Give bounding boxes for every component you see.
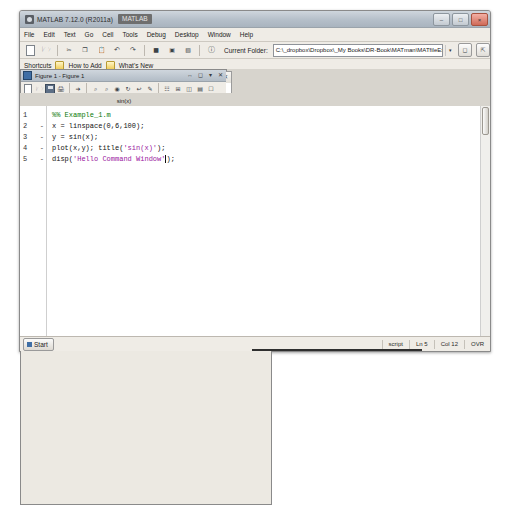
window-controls: – □ × [433, 13, 488, 26]
code-text: x = linspace(0,6,100); [52, 122, 144, 130]
zoom-out-icon[interactable]: ⌕ [101, 84, 111, 94]
code-line: y = sin(x); [52, 131, 480, 142]
window-title: MATLAB 7.12.0 (R2011a) [37, 16, 113, 23]
code-text-pre: plot(x,y); title( [52, 144, 123, 152]
menu-item-help[interactable]: Help [240, 31, 253, 38]
editor-code-area[interactable]: 1 2- 3- 4- 5- %% Example_1.m x = linspac… [20, 106, 490, 337]
menu-icon[interactable]: ▾ [206, 71, 214, 79]
guide-icon[interactable]: ▣ [165, 43, 179, 57]
shortcuts-label: Shortcuts [24, 62, 51, 69]
line-marker[interactable]: - [40, 122, 44, 130]
main-toolbar: 🗁 ✂ ❐ 📋 ↶ ↷ ■ ▣ ▧ ⓘ Current Folder: C:\_… [20, 42, 490, 59]
undock-icon[interactable]: ↔ [186, 71, 194, 79]
menu-item-edit[interactable]: Edit [43, 31, 54, 38]
pan-icon[interactable]: ◉ [112, 84, 122, 94]
line-marker[interactable]: - [40, 133, 44, 141]
gutter-line: 3- [20, 131, 46, 142]
code-text: y = sin(x); [52, 133, 98, 141]
code-text: %% Example_1.m [52, 111, 111, 119]
menu-item-go[interactable]: Go [85, 31, 94, 38]
code-line: disp('Hello Command Window'); [52, 153, 480, 164]
new-file-icon[interactable] [23, 43, 37, 57]
gutter-line: 5- [20, 153, 46, 164]
menu-item-cell[interactable]: Cell [102, 31, 113, 38]
hide-plot-tools-icon[interactable]: ◫ [184, 84, 194, 94]
menu-item-debug[interactable]: Debug [147, 31, 166, 38]
rotate3d-icon[interactable]: ↻ [123, 84, 133, 94]
zoom-in-icon[interactable]: ⌕ [90, 84, 100, 94]
chevron-down-icon[interactable]: ▾ [445, 45, 454, 56]
current-folder-input[interactable]: C:\_dropbox\Dropbox\_My Books\DR-Book\MA… [273, 44, 443, 57]
menu-item-tools[interactable]: Tools [122, 31, 137, 38]
start-button[interactable]: Start [23, 338, 54, 351]
undo-icon[interactable]: ↶ [110, 43, 124, 57]
datacursor-icon[interactable]: ↩ [134, 84, 144, 94]
pointer-icon[interactable]: ➔ [73, 84, 83, 94]
gutter-line: 1 [20, 109, 46, 120]
maximize-icon: □ [459, 17, 463, 23]
line-number: 5 [23, 155, 27, 163]
redo-icon[interactable]: ↷ [126, 43, 140, 57]
shortcut-whats-new[interactable]: What's New [119, 62, 153, 69]
status-overwrite-mode: OVR [465, 341, 490, 347]
editor-code-lines[interactable]: %% Example_1.m x = linspace(0,6,100); y … [47, 106, 480, 337]
print-icon[interactable]: 🖨 [56, 84, 66, 94]
start-icon [27, 342, 32, 347]
code-text-post: ); [166, 155, 174, 163]
matlab-main-window: MATLAB 7.12.0 (R2011a) MATLAB – □ × File… [19, 10, 491, 352]
scrollbar-thumb[interactable] [482, 107, 489, 135]
simulink-icon[interactable]: ■ [149, 43, 163, 57]
figure-title-bar: Figure 1 - Figure 1 ↔ ◻ ▾ ✕ [21, 70, 226, 82]
copy-icon[interactable]: ❐ [78, 43, 92, 57]
code-text-pre: disp( [52, 155, 73, 163]
browse-folder-icon[interactable]: ◻ [458, 43, 472, 57]
open-file-icon[interactable]: 🗁 [39, 43, 53, 57]
new-figure-icon[interactable] [23, 84, 33, 94]
start-label: Start [34, 341, 48, 348]
menu-item-desktop[interactable]: Desktop [175, 31, 199, 38]
editor-vertical-scrollbar[interactable] [480, 106, 490, 337]
paste-icon[interactable]: 📋 [94, 43, 108, 57]
current-folder-value: C:\_dropbox\Dropbox\_My Books\DR-Book\MA… [276, 47, 443, 53]
shortcut-how-to-add[interactable]: How to Add [68, 62, 101, 69]
status-bar: Start script Ln 5 Col 12 OVR [20, 336, 490, 351]
matlab-app-icon [25, 15, 34, 24]
brush-icon[interactable]: ✎ [145, 84, 155, 94]
save-figure-icon[interactable] [45, 84, 55, 94]
menu-bar: File Edit Text Go Cell Tools Debug Deskt… [20, 28, 490, 42]
maximize-icon[interactable]: ◻ [196, 71, 204, 79]
code-text-post: ); [157, 144, 165, 152]
close-button[interactable]: × [471, 13, 488, 26]
menu-item-file[interactable]: File [24, 31, 34, 38]
figure-title: Figure 1 - Figure 1 [35, 73, 84, 79]
maximize-button[interactable]: □ [452, 13, 469, 26]
help-icon[interactable]: ⓘ [204, 43, 218, 57]
line-marker[interactable]: - [40, 144, 44, 152]
show-plot-tools-icon[interactable]: ▤ [195, 84, 205, 94]
menu-item-text[interactable]: Text [64, 31, 76, 38]
menu-item-window[interactable]: Window [208, 31, 231, 38]
toolbar-separator [57, 45, 58, 56]
line-marker[interactable]: - [40, 155, 44, 163]
code-line: plot(x,y); title('sin(x)'); [52, 142, 480, 153]
line-number: 2 [23, 122, 27, 130]
dock-icon[interactable]: ☐ [206, 84, 216, 94]
close-icon[interactable]: ✕ [216, 71, 224, 79]
gutter-line: 2- [20, 120, 46, 131]
window-title-bar: MATLAB 7.12.0 (R2011a) MATLAB – □ × [20, 11, 490, 28]
line-number: 1 [23, 111, 27, 119]
plot-title: sin(x) [117, 98, 132, 104]
status-file-type: script [383, 341, 409, 347]
gutter-line: 4- [20, 142, 46, 153]
cut-icon[interactable]: ✂ [62, 43, 76, 57]
minimize-button[interactable]: – [433, 13, 450, 26]
up-one-level-icon[interactable]: ⇱ [476, 43, 490, 57]
colorbar-icon[interactable]: ☷ [162, 84, 172, 94]
line-number: 3 [23, 133, 27, 141]
line-number: 4 [23, 144, 27, 152]
status-column-number: Col 12 [435, 341, 464, 347]
open-figure-icon[interactable]: 🗁 [34, 84, 44, 94]
profiler-icon[interactable]: ▧ [181, 43, 195, 57]
legend-icon[interactable]: ⊞ [173, 84, 183, 94]
